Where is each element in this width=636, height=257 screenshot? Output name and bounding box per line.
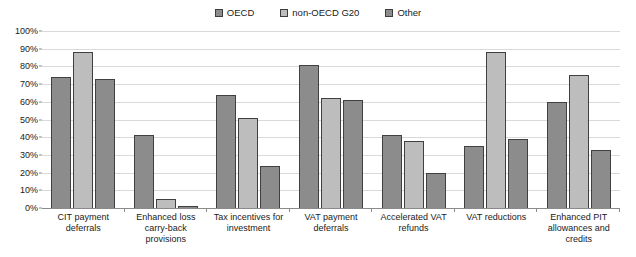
legend-label: OECD [227, 8, 254, 18]
bar-chart: OECDnon-OECD G20Other 100%90%80%70%60%50… [0, 0, 636, 257]
bar[interactable] [464, 146, 484, 208]
y-tick-label: 40% [20, 133, 38, 142]
bar[interactable] [73, 52, 93, 208]
legend-label: non-OECD G20 [292, 8, 359, 18]
bar[interactable] [95, 79, 115, 208]
x-axis-labels: CIT payment deferralsEnhanced loss carry… [42, 212, 620, 245]
bar[interactable] [238, 118, 258, 208]
x-tick-label: CIT payment deferrals [42, 212, 125, 245]
bar-group [372, 31, 455, 208]
x-tick-label: Tax incentives for investment [207, 212, 290, 245]
bar[interactable] [547, 102, 567, 208]
bar-group [125, 31, 208, 208]
bar-group [42, 31, 125, 208]
bar-group [537, 31, 620, 208]
bar-group [455, 31, 538, 208]
bar-groups [42, 31, 620, 208]
y-tick-label: 20% [20, 168, 38, 177]
legend-swatch-icon [215, 9, 223, 17]
bar[interactable] [508, 139, 528, 208]
chart-legend: OECDnon-OECD G20Other [0, 8, 636, 18]
bar[interactable] [569, 75, 589, 208]
bar[interactable] [426, 173, 446, 208]
bar[interactable] [51, 77, 71, 208]
legend-swatch-icon [280, 9, 288, 17]
legend-entry-other[interactable]: Other [385, 8, 421, 18]
legend-entry-oecd[interactable]: OECD [215, 8, 254, 18]
bar[interactable] [216, 95, 236, 208]
x-tick-label: Enhanced PIT allowances and credits [537, 212, 620, 245]
bar[interactable] [299, 65, 319, 208]
bar[interactable] [343, 100, 363, 208]
bar[interactable] [134, 135, 154, 208]
x-tick-label: VAT payment deferrals [290, 212, 373, 245]
x-tick-label: VAT reductions [455, 212, 538, 245]
legend-swatch-icon [385, 9, 393, 17]
legend-label: Other [397, 8, 421, 18]
y-tick-label: 30% [20, 150, 38, 159]
bar[interactable] [382, 135, 402, 208]
y-tick-label: 50% [20, 115, 38, 124]
y-tick-label: 0% [25, 204, 38, 213]
y-tick-label: 70% [20, 80, 38, 89]
y-tick-label: 60% [20, 97, 38, 106]
x-axis-line [42, 208, 620, 209]
bar[interactable] [260, 166, 280, 208]
bar[interactable] [156, 199, 176, 208]
legend-entry-non-oecd-g20[interactable]: non-OECD G20 [280, 8, 359, 18]
bar[interactable] [591, 150, 611, 208]
y-tick-label: 80% [20, 62, 38, 71]
bar[interactable] [404, 141, 424, 208]
y-tick-label: 90% [20, 44, 38, 53]
bar-group [290, 31, 373, 208]
x-tick-label: Enhanced loss carry-back provisions [125, 212, 208, 245]
y-tick-label: 100% [15, 27, 38, 36]
plot-area: 100%90%80%70%60%50%40%30%20%10%0% [42, 31, 620, 208]
x-tick-label: Accelerated VAT refunds [372, 212, 455, 245]
bar[interactable] [321, 98, 341, 208]
bar-group [207, 31, 290, 208]
bar[interactable] [486, 52, 506, 208]
y-tick-label: 10% [20, 186, 38, 195]
